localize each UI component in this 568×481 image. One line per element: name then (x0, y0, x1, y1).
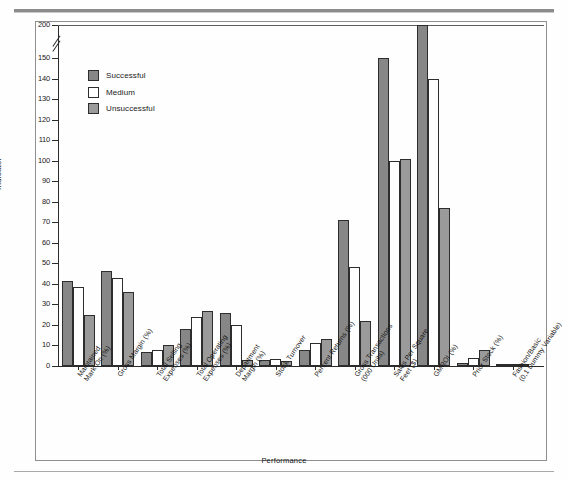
x-tick-mark (473, 366, 474, 370)
x-tick-mark (236, 366, 237, 370)
bar (468, 358, 479, 366)
y-tick-label: 100 (26, 157, 50, 165)
y-tick-label: 70 (26, 218, 50, 226)
bar-group (62, 25, 95, 366)
bar-group (378, 25, 411, 366)
x-tick-mark (355, 366, 356, 370)
bar (389, 161, 400, 366)
y-tick-label: 110 (26, 136, 50, 144)
bar (270, 359, 281, 366)
bar-group (496, 25, 529, 366)
bar-group (259, 25, 292, 366)
y-tick-label: 20 (26, 321, 50, 329)
y-tick-label: 10 (26, 341, 50, 349)
bar (191, 317, 202, 366)
bar (141, 352, 152, 366)
x-tick-mark (78, 366, 79, 370)
bar (518, 364, 529, 366)
bar (163, 345, 174, 366)
x-axis-line (58, 366, 544, 367)
bar (496, 364, 507, 366)
bottom-divider-rule (14, 471, 554, 472)
bar-group (457, 25, 490, 366)
bar (281, 361, 292, 366)
y-tick-label: 200 (26, 21, 50, 29)
x-tick-mark (434, 366, 435, 370)
bar-group (141, 25, 174, 366)
chart-page: Indicator Performance 200150140130120110… (0, 0, 568, 481)
bar (62, 281, 73, 366)
bar (378, 58, 389, 366)
bar (242, 360, 253, 366)
bar-group (417, 25, 450, 366)
bar (202, 311, 213, 366)
bar-plot-area (58, 25, 544, 366)
y-tick-label: 120 (26, 116, 50, 124)
bar (310, 343, 321, 366)
y-tick-label: 0 (26, 362, 50, 370)
y-tick-label: 140 (26, 75, 50, 83)
bar (73, 287, 84, 366)
bar (457, 363, 468, 366)
y-tick-label: 30 (26, 300, 50, 308)
bar (231, 325, 242, 366)
x-tick-mark (157, 366, 158, 370)
x-tick-mark (513, 366, 514, 370)
bar (428, 79, 439, 366)
y-tick-label: 90 (26, 177, 50, 185)
bar (349, 267, 360, 366)
bar-group (180, 25, 213, 366)
x-axis-title: Performance (0, 456, 568, 465)
x-tick-mark (118, 366, 119, 370)
bar (220, 313, 231, 366)
bar (299, 350, 310, 366)
bar (152, 350, 163, 366)
bar (101, 271, 112, 366)
bar-group (101, 25, 134, 366)
x-tick-mark (197, 366, 198, 370)
bar (321, 339, 332, 366)
top-divider-rule (14, 9, 554, 12)
bar (123, 292, 134, 366)
bar-group (220, 25, 253, 366)
bar (112, 278, 123, 366)
y-tick-label: 40 (26, 280, 50, 288)
x-tick-mark (315, 366, 316, 370)
bar (439, 208, 450, 366)
bar (259, 360, 270, 366)
bar (417, 25, 428, 366)
bar-group (299, 25, 332, 366)
y-axis-title: Indicator (0, 158, 3, 190)
y-tick-label: 60 (26, 239, 50, 247)
bar (338, 220, 349, 366)
x-tick-mark (394, 366, 395, 370)
bar (400, 159, 411, 366)
x-tick-mark (276, 366, 277, 370)
y-tick-mark (52, 366, 58, 367)
y-tick-label: 150 (26, 54, 50, 62)
bar-group (338, 25, 371, 366)
bar (180, 329, 191, 366)
y-tick-label: 50 (26, 259, 50, 267)
bar (360, 321, 371, 366)
bar (84, 315, 95, 366)
y-tick-label: 130 (26, 95, 50, 103)
y-tick-label: 80 (26, 198, 50, 206)
bar (479, 350, 490, 366)
